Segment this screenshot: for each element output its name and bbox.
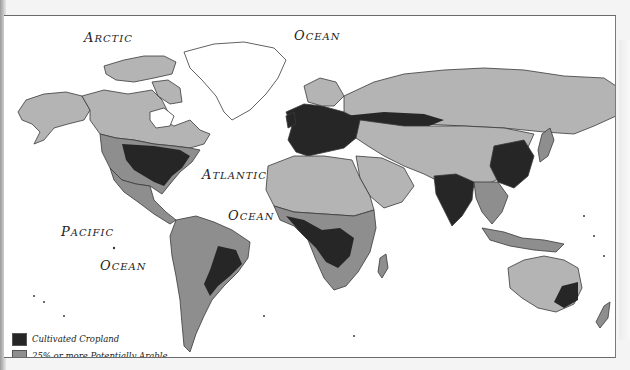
- label-atlantic: Atlantic: [202, 167, 267, 182]
- map-legend: Cultivated Cropland 25% or more Potentia…: [12, 331, 175, 358]
- land-scandinavia: [304, 78, 344, 106]
- legend-item-cultivated: Cultivated Cropland: [12, 331, 175, 347]
- land-arctic-islands: [104, 56, 176, 82]
- land-china-east: [490, 140, 534, 188]
- page-margin: [619, 40, 630, 340]
- land-madagascar: [378, 254, 388, 278]
- label-ocean-arctic: Ocean: [294, 28, 341, 43]
- swatch-arable-25-plus: [12, 350, 27, 359]
- label-arctic: Arctic: [84, 30, 133, 45]
- water-hudson-bay: [150, 108, 174, 128]
- map-geography: [4, 16, 616, 358]
- land-india: [434, 174, 474, 226]
- label-pacific: Pacific: [61, 224, 114, 239]
- label-ocean-pacific: Ocean: [100, 258, 147, 273]
- land-southeast-asia: [474, 182, 508, 224]
- pacific-islands: [33, 295, 35, 297]
- land-greenland: [184, 42, 286, 120]
- legend-label: 25% or more Potentially Arable: [32, 351, 167, 358]
- land-japan: [538, 128, 554, 162]
- world-map: Arctic Ocean Atlantic Ocean Pacific Ocea…: [4, 15, 616, 358]
- swatch-cultivated: [12, 333, 27, 346]
- legend-label: Cultivated Cropland: [32, 334, 119, 344]
- label-ocean-atlantic: Ocean: [228, 208, 275, 223]
- land-new-zealand: [596, 302, 610, 328]
- land-alaska: [18, 92, 90, 144]
- land-indonesia: [482, 228, 564, 252]
- legend-item-arable-25-plus: 25% or more Potentially Arable: [12, 348, 175, 358]
